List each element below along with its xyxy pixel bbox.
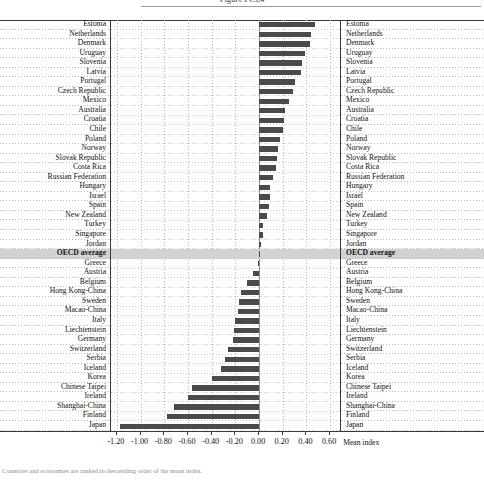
category-label-left: Shanghai-China: [57, 401, 106, 411]
figure-panel: Figure IV.3.4 EstoniaNetherlandsDenmarkU…: [0, 0, 484, 481]
category-label-right: Israel: [346, 191, 363, 201]
bar: [259, 51, 305, 56]
bar: [259, 127, 283, 132]
category-label-left: Latvia: [87, 67, 106, 77]
category-labels-left: EstoniaNetherlandsDenmarkUruguaySlovenia…: [0, 20, 110, 431]
bar: [259, 89, 293, 94]
category-label-right: Singapore: [346, 229, 377, 239]
category-label-left: Serbia: [87, 353, 106, 363]
category-label-right: Chinese Taipei: [346, 382, 391, 392]
x-tick: [211, 431, 212, 435]
bar-chart: EstoniaNetherlandsDenmarkUruguaySlovenia…: [0, 20, 484, 452]
category-label-left: Russian Federation: [48, 172, 106, 182]
x-tick: [187, 431, 188, 435]
category-label-left: Iceland: [84, 363, 106, 373]
x-tick: [305, 431, 306, 435]
category-label-left: Poland: [85, 134, 106, 144]
x-tick-label: -0.60: [178, 437, 195, 447]
category-label-right: Liechtenstein: [346, 325, 387, 335]
bar: [238, 309, 259, 314]
category-label-left: Hong Kong-China: [50, 286, 106, 296]
row-separator: [341, 430, 484, 431]
plot-row: [111, 335, 340, 345]
x-tick: [329, 431, 330, 435]
category-label-left: Ireland: [84, 391, 106, 401]
plot-row: [111, 316, 340, 326]
footnote: Countries and economies are ranked in de…: [2, 468, 482, 480]
plot-row: [111, 58, 340, 68]
bar: [234, 328, 259, 333]
x-tick: [116, 431, 117, 435]
plot-row: [111, 202, 340, 212]
category-label-right: Iceland: [346, 363, 368, 373]
bar: [259, 146, 278, 151]
plot-row: [111, 182, 340, 192]
category-label-right: Latvia: [346, 67, 365, 77]
x-tick-label: 0.60: [322, 437, 336, 447]
bar: [259, 108, 285, 113]
bar: [241, 290, 259, 295]
category-label-left: Greece: [85, 258, 107, 268]
plot-row: [111, 307, 340, 317]
bar: [259, 32, 311, 37]
plot-row: [111, 135, 340, 145]
category-label-left: Czech Republic: [58, 86, 106, 96]
category-label-right: Czech Republic: [346, 86, 394, 96]
category-label-left: Estonia: [83, 19, 106, 29]
category-label-right: Italy: [346, 315, 360, 325]
category-label-left: Turkey: [84, 219, 106, 229]
category-label-left: OECD average: [57, 248, 106, 258]
category-label-left: Singapore: [75, 229, 106, 239]
bar: [212, 376, 259, 381]
category-label-right: Norway: [346, 143, 370, 153]
x-tick: [282, 431, 283, 435]
x-tick: [163, 431, 164, 435]
plot-row: [111, 259, 340, 269]
x-tick-label: 0.00: [251, 437, 265, 447]
plot-row: [111, 106, 340, 116]
category-label-right: Mexico: [346, 95, 369, 105]
bar: [259, 213, 267, 218]
category-label-left: Switzerland: [70, 344, 106, 354]
plot-row: [111, 116, 340, 126]
category-label-left: Chinese Taipei: [61, 382, 106, 392]
plot-row: [111, 240, 340, 250]
category-label-left: Uruguay: [79, 48, 106, 58]
category-label-right: Ireland: [346, 391, 368, 401]
category-label-left: New Zealand: [65, 210, 106, 220]
plot-row: [111, 96, 340, 106]
category-row: Japan: [341, 421, 484, 431]
cut-off-title-text: Figure IV.3.4: [0, 0, 484, 4]
plot-row: [111, 192, 340, 202]
bar: [225, 357, 259, 362]
bar: [221, 366, 259, 371]
category-label-left: Belgium: [80, 277, 106, 287]
category-label-left: Slovenia: [79, 57, 106, 67]
bar: [259, 22, 315, 27]
category-label-left: Portugal: [80, 76, 106, 86]
x-tick-label: -0.20: [226, 437, 243, 447]
category-label-left: Mexico: [83, 95, 106, 105]
category-label-right: Switzerland: [346, 344, 382, 354]
category-label-right: Hungary: [346, 181, 373, 191]
category-label-right: OECD average: [346, 248, 395, 258]
category-row: Japan: [0, 421, 110, 431]
category-label-right: Costa Rica: [346, 162, 379, 172]
bar: [247, 280, 259, 285]
category-label-left: Chile: [90, 124, 106, 134]
bar: [235, 318, 259, 323]
plot-row: [111, 278, 340, 288]
plot-row: [111, 326, 340, 336]
category-label-left: Liechtenstein: [65, 325, 106, 335]
category-label-left: Australia: [78, 105, 106, 115]
category-label-right: Chile: [346, 124, 362, 134]
category-label-right: Serbia: [346, 353, 365, 363]
x-tick: [140, 431, 141, 435]
x-tick: [234, 431, 235, 435]
bar: [259, 165, 276, 170]
bar: [174, 404, 259, 409]
category-label-left: Italy: [92, 315, 106, 325]
plot-row: [111, 221, 340, 231]
plot-row: [111, 144, 340, 154]
plot-row: [111, 288, 340, 298]
